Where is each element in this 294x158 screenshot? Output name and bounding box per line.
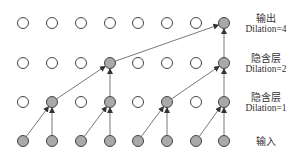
label-hidden2-cn: 隐含层: [238, 53, 294, 64]
active-node-hidden2-7: [219, 58, 230, 69]
inactive-node-output-4: [133, 18, 144, 29]
active-node-hidden1-7: [219, 97, 230, 108]
label-input-cn: 输入: [238, 136, 294, 147]
inactive-node-hidden2-5: [162, 58, 173, 69]
label-output-cn: 输出: [238, 13, 294, 24]
inactive-node-hidden2-6: [191, 58, 202, 69]
inactive-node-output-0: [18, 18, 29, 29]
active-node-input-3: [105, 136, 116, 147]
active-node-hidden1-3: [105, 97, 116, 108]
inactive-node-hidden2-0: [18, 58, 29, 69]
inactive-node-hidden2-4: [133, 58, 144, 69]
neuron-nodes: [18, 18, 230, 147]
active-node-hidden2-3: [105, 58, 116, 69]
arrow-icon: [172, 66, 220, 99]
connection-arrows: [26, 25, 224, 137]
active-node-hidden1-5: [162, 97, 173, 108]
arrow-icon: [199, 107, 220, 137]
active-node-input-7: [219, 136, 230, 147]
arrow-icon: [57, 66, 105, 99]
active-node-output-7: [219, 18, 230, 29]
active-node-input-1: [47, 136, 58, 147]
inactive-node-hidden1-0: [18, 97, 29, 108]
inactive-node-output-1: [47, 18, 58, 29]
label-input: 输入: [238, 136, 294, 147]
label-hidden2-dilation: Dilation=2: [238, 64, 294, 75]
active-node-hidden1-1: [47, 97, 58, 108]
label-hidden1-cn: 隐含层: [238, 92, 294, 103]
label-hidden1-dilation: Dilation=1: [238, 103, 294, 114]
active-node-input-2: [76, 136, 87, 147]
label-output: 输出 Dilation=4: [238, 13, 294, 35]
inactive-node-hidden2-2: [76, 58, 87, 69]
inactive-node-hidden1-4: [133, 97, 144, 108]
label-output-dilation: Dilation=4: [238, 24, 294, 35]
arrow-icon: [141, 107, 163, 137]
inactive-node-output-5: [162, 18, 173, 29]
arrow-icon: [26, 107, 48, 137]
active-node-input-5: [162, 136, 173, 147]
arrow-icon: [115, 25, 218, 61]
label-hidden-layer-2: 隐含层 Dilation=2: [238, 53, 294, 75]
inactive-node-hidden2-1: [47, 58, 58, 69]
active-node-input-6: [191, 136, 202, 147]
arrow-icon: [84, 107, 106, 137]
active-node-input-0: [18, 136, 29, 147]
inactive-node-output-2: [76, 18, 87, 29]
active-node-input-4: [133, 136, 144, 147]
inactive-node-hidden1-6: [191, 97, 202, 108]
label-hidden-layer-1: 隐含层 Dilation=1: [238, 92, 294, 114]
inactive-node-hidden1-2: [76, 97, 87, 108]
inactive-node-output-6: [191, 18, 202, 29]
inactive-node-output-3: [105, 18, 116, 29]
